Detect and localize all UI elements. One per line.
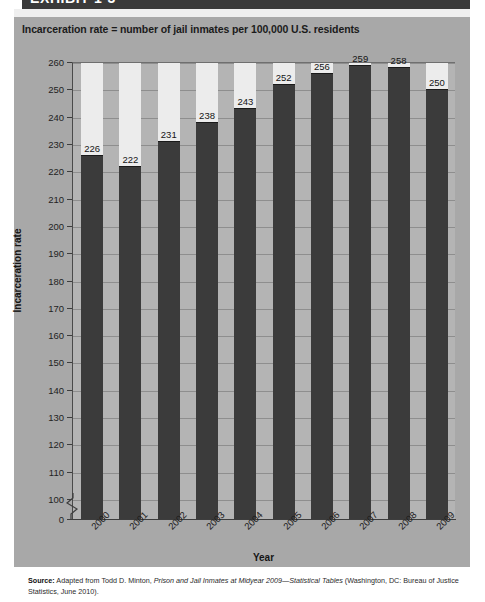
bar-value-label: 259: [342, 53, 378, 64]
bar-column: 252: [273, 63, 295, 519]
y-axis-tick-label: 260: [26, 57, 64, 68]
bar[interactable]: [426, 89, 448, 519]
exhibit-banner: EXHIBIT 1-3: [22, 0, 470, 9]
chart-subtitle: Incarceration rate = number of jail inma…: [22, 23, 452, 35]
bar-column: 238: [196, 63, 218, 519]
bar-value-label: 226: [74, 143, 110, 154]
y-axis-tick: [67, 308, 72, 309]
bar-value-label: 258: [381, 55, 417, 66]
y-axis-tick-label: 250: [26, 84, 64, 95]
bar[interactable]: [158, 141, 180, 519]
y-axis-tick-label: 170: [26, 302, 64, 313]
y-axis-tick-label: 110: [26, 466, 64, 477]
y-axis-tick-labels: 2602502402302202102001901801701601501401…: [20, 0, 64, 602]
y-axis-tick-label: 0: [26, 514, 64, 525]
bar-value-label: 250: [419, 77, 455, 88]
bar-column: 259: [349, 63, 371, 519]
banner-gap-strip: [14, 9, 470, 17]
y-axis-tick-label: 210: [26, 193, 64, 204]
y-axis-tick: [67, 472, 72, 473]
bar[interactable]: [349, 65, 371, 519]
bar[interactable]: [119, 166, 141, 519]
y-axis-tick-label: 240: [26, 111, 64, 122]
source-text-part-1: Adapted from Todd D. Minton,: [55, 576, 154, 585]
y-axis-tick: [67, 171, 72, 172]
bar-column: 256: [311, 63, 333, 519]
y-axis-tick-label: 230: [26, 138, 64, 149]
y-axis-tick-label: 140: [26, 384, 64, 395]
y-axis-tick: [67, 62, 72, 63]
y-axis-tick: [67, 144, 72, 145]
y-axis-tick-label: 180: [26, 275, 64, 286]
y-axis-tick-label: 130: [26, 412, 64, 423]
bar[interactable]: [81, 155, 103, 519]
y-axis-tick: [67, 253, 72, 254]
y-axis-tick: [67, 199, 72, 200]
y-axis-tick: [67, 417, 72, 418]
y-axis-tick: [67, 519, 72, 520]
bar-column: 231: [158, 63, 180, 519]
bar[interactable]: [273, 84, 295, 519]
y-axis-tick: [67, 390, 72, 391]
y-axis-tick: [67, 362, 72, 363]
bar[interactable]: [196, 122, 218, 519]
bar-value-label: 252: [266, 72, 302, 83]
y-axis-tick-label: 220: [26, 166, 64, 177]
bar-column: 222: [119, 63, 141, 519]
bar[interactable]: [388, 67, 410, 519]
plot-area: 226222231238243252256259258250: [72, 62, 455, 519]
y-axis-tick: [67, 499, 72, 500]
y-axis-tick: [67, 89, 72, 90]
y-axis-tick: [67, 117, 72, 118]
bar-value-label: 256: [304, 61, 340, 72]
y-axis-tick: [67, 226, 72, 227]
y-axis-tick: [67, 444, 72, 445]
y-axis-tick-label: 200: [26, 220, 64, 231]
bar[interactable]: [311, 73, 333, 519]
source-title-italic: Prison and Jail Inmates at Midyear 2009—…: [154, 576, 343, 585]
bar-column: 226: [81, 63, 103, 519]
source-note: Source: Adapted from Todd D. Minton, Pri…: [28, 575, 470, 597]
source-label: Source:: [28, 576, 55, 585]
y-axis-tick: [67, 281, 72, 282]
bar-value-label: 231: [151, 129, 187, 140]
bar-column: 250: [426, 63, 448, 519]
exhibit-page: EXHIBIT 1-3 Incarceration rate = number …: [0, 0, 485, 602]
y-axis-tick-label: 120: [26, 439, 64, 450]
bar-value-label: 243: [227, 96, 263, 107]
y-axis-tick-label: 160: [26, 330, 64, 341]
bar-column: 258: [388, 63, 410, 519]
y-axis-tick: [67, 335, 72, 336]
bar-value-label: 238: [189, 110, 225, 121]
bar-value-label: 222: [112, 154, 148, 165]
y-axis-tick-label: 150: [26, 357, 64, 368]
axis-break-icon: [64, 493, 80, 519]
x-axis-title: Year: [72, 552, 455, 563]
y-axis-tick-label: 100: [26, 494, 64, 505]
y-axis-tick-label: 190: [26, 248, 64, 259]
bar-column: 243: [234, 63, 256, 519]
bar[interactable]: [234, 108, 256, 519]
